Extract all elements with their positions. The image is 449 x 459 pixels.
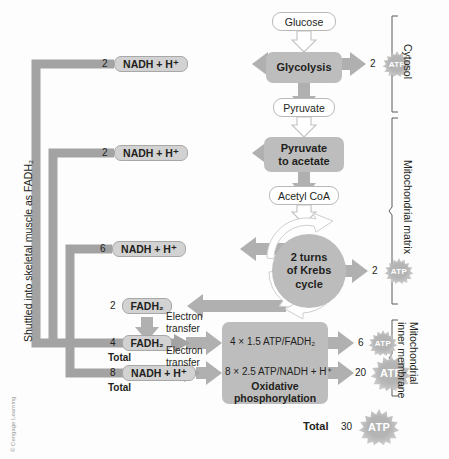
node-pyruvate: Pyruvate [273,98,335,117]
carrier-fadh2-total-caption: Total [108,352,131,363]
node-glucose-label: Glucose [285,16,324,28]
krebs-line1: 2 turns [291,251,328,264]
carrier-count-nadh-glycolysis: 2 [102,58,108,69]
diagram-canvas: Glucose Glycolysis Pyruvate Pyruvate to … [0,0,449,459]
compartment-label-cytosol: Cytosol [402,44,414,79]
atp-count-krebs: 2 [372,265,378,276]
compartment-label-inner-membrane: Mitochondrial [408,322,420,384]
electron-transfer-fadh2-line2: transfer [166,323,203,335]
node-glucose: Glucose [272,12,336,31]
carrier-count-nadh-pyruvate: 2 [102,147,108,158]
process-glycolysis-label: Glycolysis [276,61,331,74]
grand-total-label: Total [303,420,328,432]
electron-transfer-nadh-line1: Electron [166,345,203,357]
process-krebs-cycle: 2 turns of Krebs cycle [272,234,346,308]
compartment-label-inner-membrane-2: inner membrane [396,322,408,398]
oxidative-fadh2-equation: 4 × 1.5 ATP/FADH₂ [230,336,315,347]
atp-badge-krebs-label: ATP [384,258,414,284]
carrier-nadh-krebs-label: NADH + H⁺ [121,243,177,255]
electron-transfer-fadh2-line1: Electron [166,311,203,323]
node-acetyl-coa: Acetyl CoA [269,186,339,205]
atp-badge-fadh2: ATP [368,330,398,356]
carrier-count-fadh2-total: 4 [110,337,116,348]
carrier-nadh-total-caption: Total [108,382,131,393]
oxidative-title-line1: Oxidative [222,380,328,392]
carrier-fadh2-krebs-label: FADH₂ [130,300,163,312]
compartment-label-inner-membrane-line1: Mitochondrial [408,322,420,384]
electron-transfer-nadh-line2: transfer [166,357,203,369]
process-oxidative-phosphorylation: 4 × 1.5 ATP/FADH₂ 8 × 2.5 ATP/NADH + H⁺ … [222,322,328,404]
carrier-nadh-pyruvate: NADH + H⁺ [114,145,188,161]
atp-count-nadh: 20 [355,367,366,378]
krebs-line2: of Krebs [287,264,332,277]
carrier-count-nadh-krebs: 6 [100,243,106,254]
copyright-credit: © Cengage Learning [10,397,16,452]
atp-badge-fadh2-label: ATP [368,330,398,356]
carrier-nadh-glycolysis: NADH + H⁺ [114,56,188,72]
krebs-line3: cycle [295,278,323,291]
atp-badge-total: ATP [358,408,400,446]
atp-badge-total-label: ATP [358,408,400,446]
electron-transfer-label-fadh2: Electron transfer [166,311,203,334]
node-pyruvate-label: Pyruvate [283,102,324,114]
process-pyruvate-to-acetate: Pyruvate to acetate [264,137,344,172]
oxidative-nadh-equation: 8 × 2.5 ATP/NADH + H⁺ [225,366,332,377]
carrier-fadh2-krebs: FADH₂ [122,298,172,314]
shuttle-label: Shuttled into skeletal muscle as FADH₂ [22,160,34,342]
carrier-fadh2-total-label: FADH₂ [130,337,163,349]
shuttle-pipe-group [36,64,186,373]
process-glycolysis: Glycolysis [266,52,342,83]
oxidative-title-line2: phosphorylation [222,392,328,404]
atp-badge-krebs: ATP [384,258,414,284]
node-acetyl-coa-label: Acetyl CoA [278,190,330,202]
carrier-count-nadh-total: 8 [110,367,116,378]
compartment-label-mitochondrial-matrix: Mitochondrial matrix [402,160,414,254]
process-pyruvate-to-acetate-line1: Pyruvate [281,142,327,155]
carrier-nadh-glycolysis-label: NADH + H⁺ [123,58,179,70]
carrier-count-fadh2-krebs: 2 [110,300,116,311]
compartment-label-inner-membrane-line2: inner membrane [396,322,408,398]
atp-count-glycolysis: 2 [370,58,376,69]
carrier-nadh-krebs: NADH + H⁺ [112,241,186,257]
carrier-fadh2-total: FADH₂ [122,335,172,351]
process-pyruvate-to-acetate-line2: to acetate [278,155,329,168]
atp-count-fadh2: 6 [358,337,364,348]
electron-transfer-label-nadh: Electron transfer [166,345,203,368]
grand-total-count: 30 [341,421,352,432]
carrier-nadh-pyruvate-label: NADH + H⁺ [123,147,179,159]
carrier-nadh-total-label: NADH + H⁺ [131,367,187,379]
